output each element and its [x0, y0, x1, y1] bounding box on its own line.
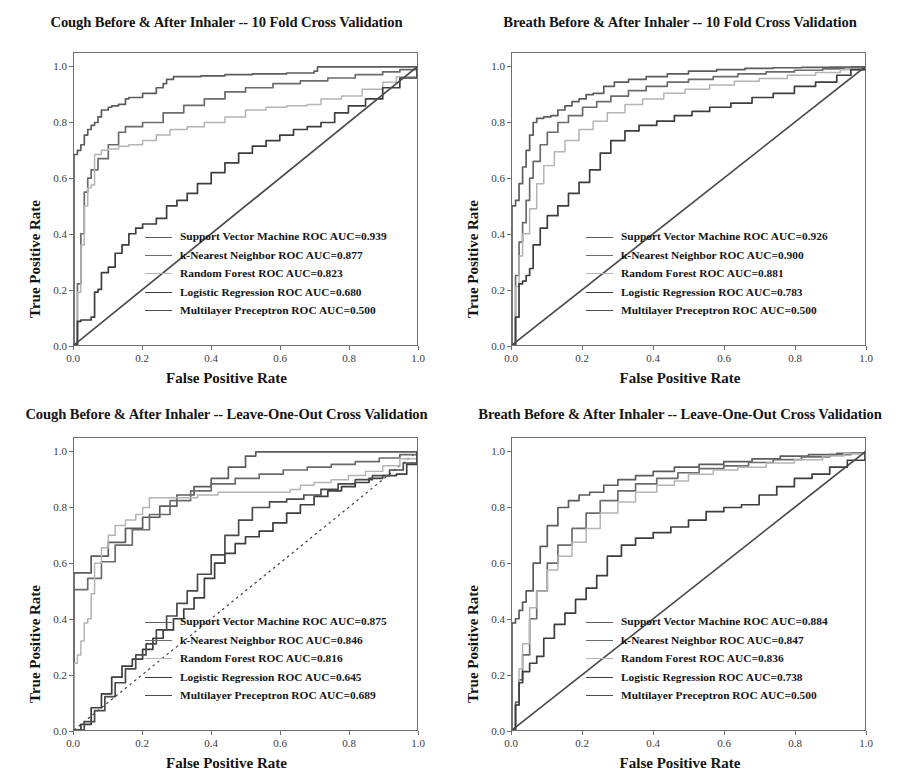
- y-axis-label: True Positive Rate: [27, 200, 44, 318]
- legend-label: Multilayer Preceptron ROC AUC=0.500: [180, 305, 376, 316]
- x-tick-label: 0.2: [575, 352, 589, 364]
- legend-swatch-mlp: [145, 695, 172, 696]
- chart-title: Cough Before & After Inhaler -- Leave-On…: [0, 406, 453, 423]
- y-tick-mark: [507, 178, 511, 179]
- y-tick-mark: [507, 451, 511, 452]
- legend: Support Vector Machine ROC AUC=0.939k-Ne…: [145, 228, 387, 320]
- legend-label: Support Vector Machine ROC AUC=0.939: [180, 231, 387, 242]
- panel-breath-loo: Breath Before & After Inhaler -- Leave-O…: [453, 392, 907, 784]
- x-tick-mark: [866, 346, 867, 350]
- legend-item[interactable]: Multilayer Preceptron ROC AUC=0.500: [586, 302, 828, 320]
- y-tick-mark: [69, 451, 73, 452]
- y-tick-mark: [69, 731, 73, 732]
- legend-item[interactable]: Random Forest ROC AUC=0.836: [586, 650, 828, 668]
- x-tick-label: 1.0: [411, 352, 425, 364]
- panel-cough-loo: Cough Before & After Inhaler -- Leave-On…: [0, 392, 453, 784]
- y-tick-mark: [69, 507, 73, 508]
- legend-label: Random Forest ROC AUC=0.823: [180, 268, 343, 279]
- x-tick-label: 1.0: [859, 352, 873, 364]
- legend-swatch-lr: [145, 292, 172, 293]
- x-tick-mark: [280, 731, 281, 735]
- legend-swatch-rf: [145, 658, 172, 659]
- x-tick-mark: [511, 346, 512, 350]
- x-tick-label: 0.2: [135, 352, 149, 364]
- y-tick-label: 0.8: [39, 501, 67, 513]
- y-tick-mark: [69, 675, 73, 676]
- legend: Support Vector Machine ROC AUC=0.926k-Ne…: [586, 228, 828, 320]
- x-tick-mark: [724, 731, 725, 735]
- legend-item[interactable]: Random Forest ROC AUC=0.881: [586, 265, 828, 283]
- legend-swatch-rf: [586, 273, 613, 274]
- y-tick-label: 0.6: [39, 557, 67, 569]
- legend-swatch-rf: [145, 273, 172, 274]
- y-tick-mark: [69, 122, 73, 123]
- x-tick-label: 0.2: [575, 737, 589, 749]
- legend-label: Random Forest ROC AUC=0.881: [621, 268, 784, 279]
- y-tick-mark: [69, 234, 73, 235]
- x-axis-label: False Positive Rate: [0, 370, 453, 387]
- legend-item[interactable]: k-Nearest Neighbor ROC AUC=0.900: [586, 246, 828, 264]
- legend-item[interactable]: Logistic Regression ROC AUC=0.783: [586, 283, 828, 301]
- legend-swatch-svm: [586, 622, 613, 623]
- legend-item[interactable]: Logistic Regression ROC AUC=0.680: [145, 283, 387, 301]
- y-tick-label: 0.8: [39, 116, 67, 128]
- x-tick-mark: [653, 731, 654, 735]
- legend-item[interactable]: Logistic Regression ROC AUC=0.645: [145, 668, 387, 686]
- y-tick-mark: [507, 234, 511, 235]
- x-tick-label: 0.0: [66, 737, 80, 749]
- x-tick-mark: [73, 346, 74, 350]
- chart-title: Breath Before & After Inhaler -- 10 Fold…: [453, 14, 907, 31]
- legend-label: k-Nearest Neighbor ROC AUC=0.847: [621, 635, 804, 646]
- legend-label: Multilayer Preceptron ROC AUC=0.689: [180, 690, 376, 701]
- legend-swatch-knn: [586, 255, 613, 256]
- x-tick-label: 0.8: [788, 737, 802, 749]
- legend-item[interactable]: Support Vector Machine ROC AUC=0.939: [145, 228, 387, 246]
- y-tick-label: 1.0: [39, 60, 67, 72]
- x-tick-mark: [582, 731, 583, 735]
- x-tick-mark: [795, 346, 796, 350]
- legend-item[interactable]: Multilayer Preceptron ROC AUC=0.500: [586, 687, 828, 705]
- y-tick-mark: [69, 563, 73, 564]
- y-tick-mark: [507, 507, 511, 508]
- x-tick-label: 0.0: [504, 352, 518, 364]
- legend-item[interactable]: k-Nearest Neighbor ROC AUC=0.846: [145, 631, 387, 649]
- x-tick-mark: [349, 346, 350, 350]
- y-tick-label: 0.0: [477, 340, 505, 352]
- x-tick-mark: [418, 731, 419, 735]
- legend-item[interactable]: Support Vector Machine ROC AUC=0.884: [586, 613, 828, 631]
- x-tick-mark: [211, 346, 212, 350]
- y-tick-mark: [69, 290, 73, 291]
- y-tick-mark: [507, 675, 511, 676]
- x-tick-label: 0.8: [788, 352, 802, 364]
- panel-cough-10fold: Cough Before & After Inhaler -- 10 Fold …: [0, 0, 453, 392]
- legend-item[interactable]: k-Nearest Neighbor ROC AUC=0.847: [586, 631, 828, 649]
- x-tick-mark: [582, 346, 583, 350]
- x-tick-label: 0.6: [273, 352, 287, 364]
- y-tick-mark: [69, 346, 73, 347]
- legend-label: Multilayer Preceptron ROC AUC=0.500: [621, 305, 817, 316]
- legend-item[interactable]: Logistic Regression ROC AUC=0.738: [586, 668, 828, 686]
- x-tick-mark: [142, 346, 143, 350]
- y-tick-label: 0.0: [39, 725, 67, 737]
- legend: Support Vector Machine ROC AUC=0.875k-Ne…: [145, 613, 387, 705]
- legend-item[interactable]: Multilayer Preceptron ROC AUC=0.500: [145, 302, 387, 320]
- y-tick-mark: [69, 66, 73, 67]
- x-tick-label: 1.0: [859, 737, 873, 749]
- legend-item[interactable]: Support Vector Machine ROC AUC=0.875: [145, 613, 387, 631]
- y-tick-mark: [507, 731, 511, 732]
- y-tick-mark: [507, 122, 511, 123]
- legend-item[interactable]: Support Vector Machine ROC AUC=0.926: [586, 228, 828, 246]
- legend-label: Support Vector Machine ROC AUC=0.875: [180, 616, 387, 627]
- y-axis-label: True Positive Rate: [465, 200, 482, 318]
- x-axis-label: False Positive Rate: [453, 755, 907, 772]
- x-tick-mark: [349, 731, 350, 735]
- y-tick-label: 1.0: [477, 60, 505, 72]
- x-tick-mark: [211, 731, 212, 735]
- legend-item[interactable]: Random Forest ROC AUC=0.816: [145, 650, 387, 668]
- legend-label: k-Nearest Neighbor ROC AUC=0.846: [180, 635, 363, 646]
- legend-swatch-lr: [586, 677, 613, 678]
- x-tick-label: 0.4: [646, 352, 660, 364]
- legend-item[interactable]: Random Forest ROC AUC=0.823: [145, 265, 387, 283]
- legend-item[interactable]: k-Nearest Neighbor ROC AUC=0.877: [145, 246, 387, 264]
- legend-item[interactable]: Multilayer Preceptron ROC AUC=0.689: [145, 687, 387, 705]
